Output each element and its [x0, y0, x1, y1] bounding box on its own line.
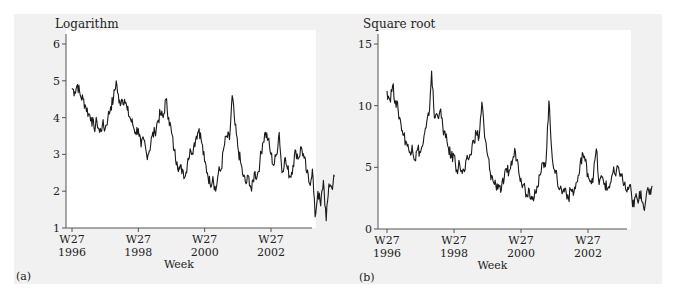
y-tick-label: 3 — [53, 148, 60, 161]
x-axis-label: Week — [477, 259, 507, 272]
chart-title: Logarithm — [55, 17, 119, 31]
square-root-chart: Square root051015W271996W271998W272000W2… — [337, 0, 674, 308]
x-tick-label-week: W27 — [441, 234, 466, 247]
x-axis-label: Week — [164, 258, 194, 271]
x-tick-label-week: W27 — [508, 234, 533, 247]
panel-b: Square root051015W271996W271998W272000W2… — [337, 0, 674, 308]
plot-area — [66, 30, 316, 228]
panel-label: (a) — [16, 270, 31, 283]
y-tick-label: 0 — [365, 223, 372, 236]
panel-a: Logarithm123456W271996W271998W272000W272… — [0, 0, 337, 308]
x-tick-label-year: 2000 — [507, 247, 535, 260]
y-tick-label: 4 — [53, 112, 60, 125]
y-tick-label: 5 — [53, 75, 60, 88]
y-tick-label: 10 — [358, 100, 372, 113]
x-tick-label-year: 1998 — [124, 246, 152, 259]
panel-label: (b) — [359, 271, 375, 284]
x-tick-label-year: 2002 — [257, 246, 285, 259]
y-tick-label: 15 — [358, 38, 372, 51]
x-tick-label-week: W27 — [575, 234, 600, 247]
logarithm-chart: Logarithm123456W271996W271998W272000W272… — [0, 0, 337, 308]
x-tick-label-week: W27 — [374, 234, 399, 247]
x-tick-label-week: W27 — [59, 233, 84, 246]
x-tick-label-week: W27 — [126, 233, 151, 246]
x-tick-label-year: 1998 — [440, 247, 468, 260]
chart-title: Square root — [363, 17, 436, 31]
x-tick-label-year: 2002 — [574, 247, 602, 260]
x-tick-label-year: 2000 — [191, 246, 219, 259]
y-tick-label: 2 — [53, 185, 60, 198]
x-tick-label-year: 1996 — [373, 247, 401, 260]
y-tick-label: 6 — [53, 38, 60, 51]
y-tick-label: 5 — [365, 161, 372, 174]
x-tick-label-week: W27 — [192, 233, 217, 246]
x-tick-label-year: 1996 — [58, 246, 86, 259]
plot-area — [378, 30, 631, 229]
x-tick-label-week: W27 — [258, 233, 283, 246]
